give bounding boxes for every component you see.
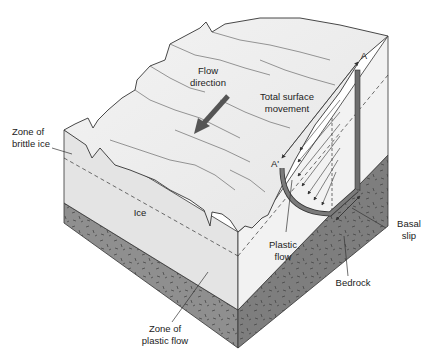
label-point-a-prime: A' bbox=[268, 158, 282, 170]
plastic-flow-line2: flow bbox=[258, 251, 308, 263]
label-ice: Ice bbox=[128, 207, 152, 219]
label-total-surface-movement: Total surface movement bbox=[252, 91, 322, 114]
label-zone-brittle-ice: Zone of brittle ice bbox=[12, 126, 50, 149]
brittle-line1: Zone of bbox=[12, 126, 50, 138]
point-a-prime-text: A' bbox=[268, 158, 282, 170]
label-basal-slip: Basal slip bbox=[392, 218, 426, 241]
label-flow-direction: Flow direction bbox=[188, 65, 228, 88]
label-point-a: A bbox=[358, 50, 370, 62]
plastic-flow-line1: Plastic bbox=[258, 239, 308, 251]
basal-line1: Basal bbox=[392, 218, 426, 230]
ice-text: Ice bbox=[128, 207, 152, 219]
total-surface-line2: movement bbox=[252, 103, 322, 115]
flow-direction-line2: direction bbox=[188, 77, 228, 89]
plastic-zone-line1: Zone of bbox=[135, 323, 195, 335]
label-bedrock: Bedrock bbox=[330, 277, 376, 289]
bedrock-text: Bedrock bbox=[330, 277, 376, 289]
basal-line2: slip bbox=[392, 230, 426, 242]
total-surface-line1: Total surface bbox=[252, 91, 322, 103]
plastic-zone-line2: plastic flow bbox=[135, 335, 195, 347]
profile-bar-a bbox=[355, 70, 360, 190]
flow-direction-line1: Flow bbox=[188, 65, 228, 77]
label-plastic-flow: Plastic flow bbox=[258, 239, 308, 262]
brittle-line2: brittle ice bbox=[12, 138, 50, 150]
point-a-text: A bbox=[358, 50, 370, 62]
label-zone-plastic-flow: Zone of plastic flow bbox=[135, 323, 195, 346]
